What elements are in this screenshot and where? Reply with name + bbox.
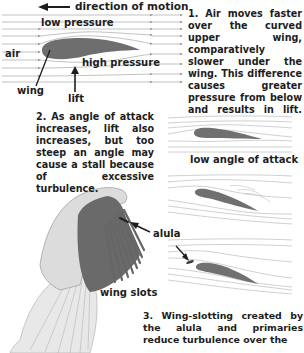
low-pressure-label: low pressure (41, 17, 114, 28)
high-pressure-label: high pressure (82, 57, 160, 68)
airfoil-low-angle (194, 128, 262, 139)
caption-3: 3. Wing-slotting created by the alula an… (143, 310, 303, 346)
low-angle-of-attack-label: low angle of attack (190, 154, 298, 165)
caption-2: 2. As angle of attack increases, lift al… (36, 111, 154, 207)
wing-label: wing (17, 85, 44, 96)
alula-slat (186, 259, 194, 264)
wing-airfoil (42, 38, 140, 59)
lift-label: lift (68, 93, 84, 104)
bird-illustration (10, 188, 150, 353)
alula-label: alula (153, 228, 180, 239)
air-label: air (5, 48, 20, 59)
direction-of-motion-label: direction of motion (75, 1, 189, 12)
caption-1: 1. Air moves faster over the curved uppe… (188, 8, 302, 128)
airfoil-high-angle (195, 189, 258, 211)
wing-slots-label: wing slots (100, 287, 157, 298)
